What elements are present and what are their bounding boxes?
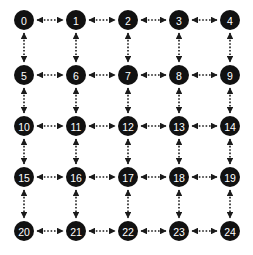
node-5: 5 xyxy=(14,65,34,85)
node-label: 15 xyxy=(18,172,30,184)
node-label: 19 xyxy=(224,172,236,184)
node-12: 12 xyxy=(118,116,138,136)
node-label: 23 xyxy=(173,226,185,238)
node-label: 18 xyxy=(173,172,185,184)
node-label: 2 xyxy=(125,15,131,27)
node-16: 16 xyxy=(66,167,86,187)
node-11: 11 xyxy=(66,116,86,136)
node-label: 20 xyxy=(18,226,30,238)
node-0: 0 xyxy=(14,10,34,30)
node-9: 9 xyxy=(220,65,240,85)
node-label: 22 xyxy=(122,226,134,238)
node-13: 13 xyxy=(169,116,189,136)
node-label: 17 xyxy=(122,172,134,184)
node-label: 6 xyxy=(73,70,79,82)
node-label: 13 xyxy=(173,121,185,133)
grid-graph-diagram: 0123456789101112131415161718192021222324 xyxy=(0,0,253,255)
node-1: 1 xyxy=(66,10,86,30)
node-23: 23 xyxy=(169,221,189,241)
node-label: 12 xyxy=(122,121,134,133)
node-17: 17 xyxy=(118,167,138,187)
node-label: 5 xyxy=(21,70,27,82)
node-label: 10 xyxy=(18,121,30,133)
node-3: 3 xyxy=(169,10,189,30)
node-7: 7 xyxy=(118,65,138,85)
node-4: 4 xyxy=(220,10,240,30)
node-label: 14 xyxy=(224,121,236,133)
node-label: 7 xyxy=(125,70,131,82)
node-label: 4 xyxy=(227,15,233,27)
node-15: 15 xyxy=(14,167,34,187)
node-label: 21 xyxy=(70,226,82,238)
node-18: 18 xyxy=(169,167,189,187)
node-label: 9 xyxy=(227,70,233,82)
node-24: 24 xyxy=(220,221,240,241)
node-8: 8 xyxy=(169,65,189,85)
node-label: 8 xyxy=(176,70,182,82)
node-label: 16 xyxy=(70,172,82,184)
node-19: 19 xyxy=(220,167,240,187)
node-22: 22 xyxy=(118,221,138,241)
node-21: 21 xyxy=(66,221,86,241)
node-label: 3 xyxy=(176,15,182,27)
node-label: 1 xyxy=(73,15,79,27)
node-label: 11 xyxy=(71,121,82,133)
node-2: 2 xyxy=(118,10,138,30)
node-6: 6 xyxy=(66,65,86,85)
node-20: 20 xyxy=(14,221,34,241)
node-label: 24 xyxy=(224,226,236,238)
node-10: 10 xyxy=(14,116,34,136)
node-14: 14 xyxy=(220,116,240,136)
node-label: 0 xyxy=(21,15,27,27)
